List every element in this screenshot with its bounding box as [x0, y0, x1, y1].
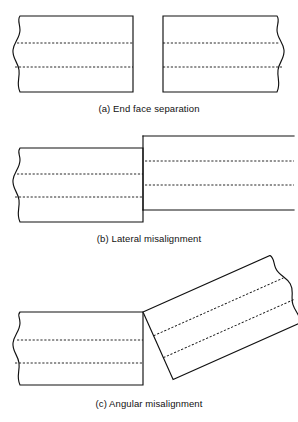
left-fiber-outline	[13, 148, 143, 222]
right-fiber-outline	[143, 136, 294, 210]
right-fiber-outline	[163, 16, 284, 92]
panel-b-caption: (b) Lateral misalignment	[0, 233, 298, 245]
panel-lateral-misalignment: (b) Lateral misalignment	[0, 125, 298, 255]
panel-angular-misalignment: (c) Angular misalignment	[0, 255, 298, 422]
panel-end-face-separation: (a) End face separation	[0, 0, 298, 125]
panel-b-drawing	[0, 125, 298, 233]
right-fiber-rotated-group	[143, 255, 298, 380]
figure-root: (a) End face separation (b) Lateral misa…	[0, 0, 298, 422]
panel-c-caption: (c) Angular misalignment	[0, 398, 298, 410]
panel-a-caption: (a) End face separation	[0, 103, 298, 115]
panel-c-drawing	[0, 255, 298, 398]
right-fiber-outline	[143, 255, 298, 380]
panel-a-drawing	[0, 0, 298, 103]
left-fiber-outline	[13, 312, 143, 385]
left-fiber-outline	[13, 16, 133, 92]
